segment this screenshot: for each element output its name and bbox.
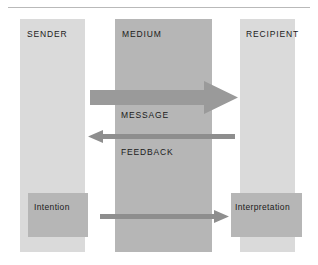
box-label-interpretation: Interpretation (235, 202, 290, 212)
arrow-intention-to-interpretation (100, 210, 229, 223)
communication-model-diagram: SENDER MEDIUM RECIPIENT MESSAGE FEEDBACK… (0, 0, 318, 265)
flow-label-message: MESSAGE (121, 110, 169, 120)
arrow-layer (0, 0, 318, 265)
column-label-medium: MEDIUM (122, 29, 162, 39)
arrow-feedback (88, 130, 235, 143)
box-label-intention: Intention (34, 202, 70, 212)
column-label-recipient: RECIPIENT (246, 29, 299, 39)
column-label-sender: SENDER (27, 29, 68, 39)
flow-label-feedback: FEEDBACK (121, 147, 174, 157)
